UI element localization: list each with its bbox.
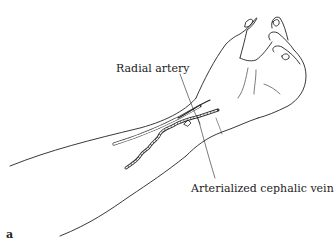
- forearm-lower-contour: [60, 156, 186, 236]
- panel-label: a: [6, 228, 13, 241]
- fingernail-index: [273, 20, 279, 27]
- palm-outline: [240, 42, 272, 61]
- thumb: [240, 18, 257, 58]
- forearm-upper-contour: [10, 98, 196, 166]
- finger-ring: [273, 46, 300, 64]
- vein-leader: [198, 118, 215, 178]
- palm-crease: [264, 84, 280, 94]
- fingernail-ring: [282, 54, 289, 60]
- cephalic-vein-label: Arterialized cephalic vein: [191, 182, 334, 195]
- wrist-lower-contour: [186, 118, 258, 156]
- palm-crease: [254, 70, 256, 94]
- cephalic-vein: [126, 110, 218, 168]
- palm-side: [258, 50, 306, 118]
- cephalic-vein-inner: [126, 110, 218, 168]
- finger-middle: [269, 32, 294, 50]
- palm-crease: [238, 68, 248, 98]
- radial-artery-label: Radial artery: [116, 62, 189, 75]
- skin-mark: [216, 118, 222, 134]
